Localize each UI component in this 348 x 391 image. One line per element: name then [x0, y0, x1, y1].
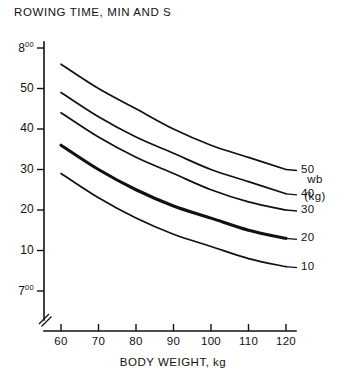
x-axis-tick-label: 120 [266, 335, 306, 347]
legend-label-10: 10 [301, 260, 315, 272]
x-axis-ticks [61, 324, 286, 331]
x-axis-tick-label: 110 [229, 335, 269, 347]
x-axis-tick-label: 80 [116, 335, 156, 347]
y-axis-tick-label: 700 [0, 283, 34, 298]
y-axis-tick-label: 40 [0, 121, 34, 135]
x-axis-tick-label: 60 [41, 335, 81, 347]
series-line-40 [61, 93, 286, 194]
axis-break-icon [39, 314, 52, 327]
rowing-time-chart: ROWING TIME, MIN AND S 8005040302010700 … [0, 0, 348, 391]
legend-label-50: 50 [301, 163, 315, 175]
legend-leader-20 [286, 238, 297, 239]
x-axis-tick-label: 90 [154, 335, 194, 347]
y-axis-tick-label: 30 [0, 162, 34, 176]
legend-leader-30 [286, 210, 297, 211]
legend-units: (kg) [292, 190, 338, 202]
y-axis-tick-label: 800 [0, 40, 34, 55]
legend-leader-10 [286, 267, 297, 268]
chart-series-group [61, 64, 286, 267]
series-line-10 [61, 174, 286, 267]
legend-leader-50 [286, 170, 297, 171]
legend-title: wb [296, 173, 334, 185]
y-axis-tick-label: 10 [0, 243, 34, 257]
y-axis-tick-label: 50 [0, 81, 34, 95]
chart-axes [39, 42, 296, 331]
y-axis-tick-label: 20 [0, 202, 34, 216]
y-axis-ticks [37, 48, 44, 291]
legend-label-40: 40 [301, 187, 315, 199]
x-axis-title: BODY WEIGHT, kg [108, 356, 238, 368]
x-axis-tick-label: 100 [191, 335, 231, 347]
x-axis-tick-label: 70 [79, 335, 119, 347]
legend-label-30: 30 [301, 203, 315, 215]
legend-label-20: 20 [301, 231, 315, 243]
